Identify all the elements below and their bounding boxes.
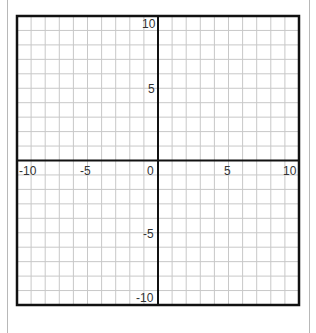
y-label-5: 5 bbox=[148, 83, 155, 95]
coordinate-grid bbox=[0, 0, 316, 333]
y-label-neg10: -10 bbox=[136, 292, 153, 304]
y-label-neg5: -5 bbox=[143, 228, 154, 240]
y-label-10: 10 bbox=[142, 18, 155, 30]
x-label-neg10: -10 bbox=[19, 165, 36, 177]
origin-label: 0 bbox=[147, 165, 154, 177]
x-label-neg5: -5 bbox=[80, 165, 91, 177]
x-label-5: 5 bbox=[224, 165, 231, 177]
x-label-10: 10 bbox=[283, 165, 296, 177]
